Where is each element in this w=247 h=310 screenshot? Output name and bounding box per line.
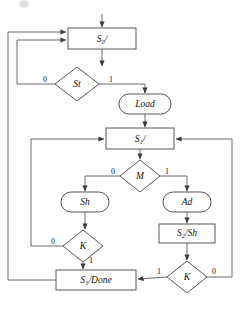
edge-m0-to-sh <box>85 176 120 191</box>
decision-diamond-k-right[interactable]: K <box>167 261 207 293</box>
state-box-s0[interactable]: S₀/ <box>68 28 136 49</box>
edge-st1-to-load <box>99 84 145 93</box>
state-label-s1: S₁/ <box>135 134 147 144</box>
asm-chart-svg: S₀/ S₁/ S₂/Sh S₃/Done St M K <box>0 0 247 310</box>
decision-diamond-m[interactable]: M <box>120 160 160 192</box>
decision-diamond-k-left[interactable]: K <box>63 230 103 262</box>
edge-label-kright-1: 1 <box>157 267 161 276</box>
scan-artifact <box>19 0 29 8</box>
state-label-s2: S₂/Sh <box>177 228 197 238</box>
decision-label-k-right: K <box>183 272 191 282</box>
edge-m1-to-ad <box>160 176 187 191</box>
state-box-s2[interactable]: S₂/Sh <box>159 224 215 243</box>
output-label-load: Load <box>134 99 155 109</box>
edge-label-st-0: 0 <box>43 75 47 84</box>
edge-label-st-1: 1 <box>109 75 113 84</box>
decision-diamond-st[interactable]: St <box>55 67 99 101</box>
state-label-s0: S₀/ <box>97 34 109 44</box>
output-oval-ad[interactable]: Ad <box>163 192 211 212</box>
state-label-s3: S₃/Done <box>80 275 111 285</box>
edge-label-kleft-1: 1 <box>89 256 93 265</box>
edge-label-kleft-0: 0 <box>51 237 55 246</box>
state-box-s3[interactable]: S₃/Done <box>56 270 136 290</box>
state-box-s1[interactable]: S₁/ <box>106 128 174 149</box>
edge-st0-to-s0 <box>17 40 66 84</box>
edge-label-kright-0: 0 <box>212 267 216 276</box>
output-oval-load[interactable]: Load <box>119 94 171 114</box>
output-label-sh: Sh <box>80 197 90 207</box>
edge-label-m-0: 0 <box>111 167 115 176</box>
decision-label-k-left: K <box>79 241 87 251</box>
edge-label-m-1: 1 <box>165 167 169 176</box>
decision-label-st: St <box>73 79 81 89</box>
output-label-ad: Ad <box>181 197 193 207</box>
decision-label-m: M <box>135 171 145 181</box>
output-oval-sh[interactable]: Sh <box>61 192 109 212</box>
asm-chart-canvas: S₀/ S₁/ S₂/Sh S₃/Done St M K <box>0 0 247 310</box>
edge-kright1-to-s3 <box>138 277 167 279</box>
